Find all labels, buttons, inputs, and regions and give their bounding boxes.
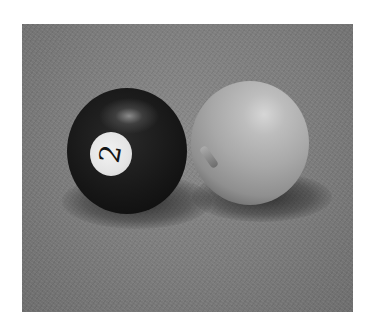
two-ball: 2 bbox=[67, 88, 187, 214]
cue-ball bbox=[191, 81, 309, 205]
cue-ball-reflection bbox=[199, 145, 219, 169]
billiard-photo: 2 bbox=[22, 24, 353, 312]
ball-number: 2 bbox=[96, 143, 127, 165]
number-disc: 2 bbox=[90, 132, 132, 176]
